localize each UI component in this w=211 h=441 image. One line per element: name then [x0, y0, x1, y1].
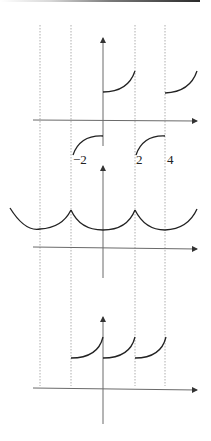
- panel-bottom: [33, 317, 197, 424]
- tick-label-2: 2: [136, 152, 143, 167]
- panel-middle: [10, 166, 197, 278]
- function-graphs-figure: −2 2 4: [0, 0, 211, 441]
- x-axis: [33, 120, 197, 121]
- x-axis: [33, 247, 197, 249]
- tick-label-4: 4: [167, 152, 174, 167]
- panel-top: −2 2 4: [33, 38, 197, 167]
- x-axis: [33, 388, 197, 390]
- tick-label-neg2: −2: [73, 152, 87, 167]
